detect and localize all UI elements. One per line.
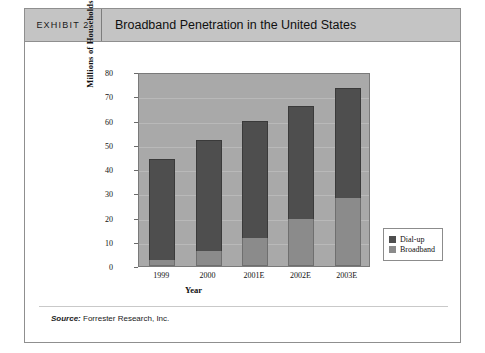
bar-segment-broadband	[242, 238, 268, 266]
bar-segment-dialup	[149, 159, 175, 260]
legend-label-broadband: Broadband	[400, 245, 435, 254]
y-tick-label: 0	[87, 263, 113, 272]
legend-item-dialup: Dial-up	[389, 235, 435, 244]
bar-2003E	[335, 88, 361, 266]
exhibit-title: Broadband Penetration in the United Stat…	[102, 9, 460, 41]
source-text: Forrester Research, Inc.	[81, 314, 169, 323]
bar-segment-broadband	[149, 260, 175, 266]
source-label: Source:	[51, 314, 81, 323]
chart-legend: Dial-up Broadband	[383, 228, 443, 261]
x-axis-label-text: Year	[185, 285, 202, 295]
exhibit-page: EXHIBIT 2 Broadband Penetration in the U…	[0, 0, 485, 353]
x-axis-label: Year	[25, 285, 462, 295]
bar-group	[139, 74, 369, 266]
legend-item-broadband: Broadband	[389, 245, 435, 254]
y-tick-label: 30	[87, 190, 113, 199]
bar-segment-broadband	[335, 198, 361, 266]
bar-segment-dialup	[242, 121, 268, 239]
source-divider	[39, 306, 448, 307]
bar-2002E	[288, 106, 314, 266]
legend-label-dialup: Dial-up	[400, 235, 424, 244]
bar-2000	[196, 140, 222, 266]
y-tick-label: 20	[87, 214, 113, 223]
bar-2001E	[242, 121, 268, 266]
y-tick-label: 60	[87, 117, 113, 126]
y-tick-label: 40	[87, 166, 113, 175]
y-tick-label: 50	[87, 141, 113, 150]
bar-segment-dialup	[196, 140, 222, 252]
source-note: Source: Forrester Research, Inc.	[51, 314, 169, 323]
y-tick-label: 70	[87, 93, 113, 102]
y-tick-mark	[134, 267, 138, 268]
exhibit-body: Millions of Households 01020304050607080…	[24, 42, 461, 343]
chart-container: Millions of Households 01020304050607080…	[25, 42, 462, 300]
legend-swatch-broadband-icon	[389, 246, 396, 253]
bar-segment-dialup	[288, 106, 314, 219]
y-tick-label: 80	[87, 69, 113, 78]
bar-1999	[149, 159, 175, 266]
bar-segment-broadband	[196, 251, 222, 266]
legend-swatch-dialup-icon	[389, 236, 396, 243]
x-tick-label: 2003E	[317, 271, 377, 280]
plot-area	[138, 73, 370, 267]
bar-segment-broadband	[288, 219, 314, 266]
bar-segment-dialup	[335, 88, 361, 198]
y-tick-label: 10	[87, 238, 113, 247]
